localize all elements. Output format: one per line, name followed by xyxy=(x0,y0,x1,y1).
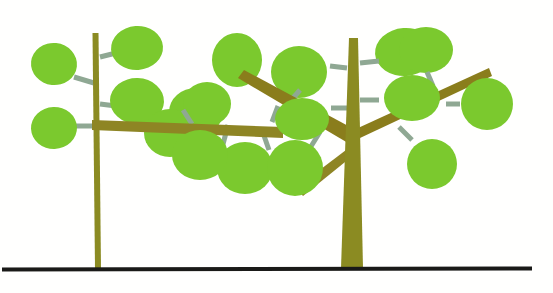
background xyxy=(0,0,553,293)
ground-line xyxy=(2,269,532,270)
leaf-r2 xyxy=(384,75,440,121)
leaf-r5 xyxy=(407,139,457,189)
leaf-b4 xyxy=(267,140,323,196)
leaf-b5 xyxy=(172,130,228,180)
leaf-r6 xyxy=(461,78,513,130)
stem-r1 xyxy=(360,61,379,63)
leaf-r4 xyxy=(275,98,329,140)
leaf-r7 xyxy=(399,27,453,73)
tree-illustration-canvas xyxy=(0,0,553,293)
scene-svg xyxy=(0,0,553,293)
stem-r3 xyxy=(330,66,347,68)
